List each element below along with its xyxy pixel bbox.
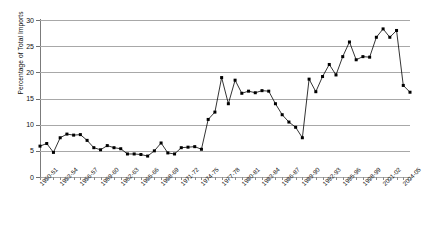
data-point-marker (86, 139, 89, 142)
data-point-marker (187, 146, 190, 149)
data-point-marker (287, 121, 290, 124)
data-point-marker (45, 142, 48, 145)
data-point-marker (281, 113, 284, 116)
data-point-marker (395, 29, 398, 32)
data-point-marker (146, 155, 149, 158)
data-point-marker (99, 148, 102, 151)
data-point-marker (240, 92, 243, 95)
imports-percentage-line-chart: Percentage of Total Imports 051015202530… (0, 0, 429, 234)
data-point-marker (254, 91, 257, 94)
data-point-marker (227, 102, 230, 105)
data-point-marker (139, 153, 142, 156)
data-point-marker (193, 145, 196, 148)
data-point-marker (113, 146, 116, 149)
data-point-marker (348, 40, 351, 43)
data-point-marker (92, 146, 95, 149)
data-point-marker (335, 73, 338, 76)
data-point-marker (207, 118, 210, 121)
data-point-marker (119, 147, 122, 150)
data-point-marker (274, 102, 277, 105)
data-point-marker (79, 133, 82, 136)
series-markers (39, 27, 412, 157)
data-point-marker (308, 78, 311, 81)
data-point-marker (126, 152, 129, 155)
data-point-marker (52, 151, 55, 154)
data-point-marker (328, 63, 331, 66)
data-point-marker (361, 55, 364, 58)
series-line (40, 29, 410, 156)
data-point-marker (267, 90, 270, 93)
data-point-marker (166, 151, 169, 154)
data-point-marker (301, 136, 304, 139)
data-point-marker (314, 90, 317, 93)
data-point-marker (321, 75, 324, 78)
data-point-marker (160, 141, 163, 144)
data-point-marker (65, 133, 68, 136)
data-point-marker (234, 79, 237, 82)
data-point-marker (294, 126, 297, 129)
data-point-marker (213, 111, 216, 114)
data-point-marker (355, 58, 358, 61)
data-point-marker (402, 84, 405, 87)
data-point-marker (72, 134, 75, 137)
data-point-marker (153, 149, 156, 152)
data-point-marker (59, 136, 62, 139)
data-point-marker (375, 36, 378, 39)
data-series (0, 0, 429, 234)
data-point-marker (368, 56, 371, 59)
data-point-marker (200, 148, 203, 151)
data-point-marker (247, 90, 250, 93)
data-point-marker (261, 89, 264, 92)
data-point-marker (180, 146, 183, 149)
data-point-marker (382, 27, 385, 30)
data-point-marker (173, 152, 176, 155)
data-point-marker (220, 76, 223, 79)
data-point-marker (409, 91, 412, 94)
data-point-marker (133, 152, 136, 155)
data-point-marker (341, 55, 344, 58)
data-point-marker (388, 36, 391, 39)
data-point-marker (106, 144, 109, 147)
data-point-marker (39, 145, 42, 148)
